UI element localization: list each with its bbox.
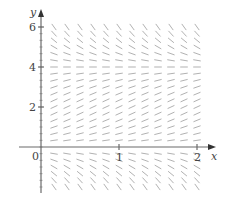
slope-segment — [129, 126, 135, 128]
slope-segment — [116, 119, 122, 122]
slope-segment — [143, 31, 148, 36]
slope-segment — [142, 153, 149, 154]
slope-segment — [91, 184, 95, 190]
slope-segment — [169, 184, 173, 190]
slope-segment — [181, 53, 187, 55]
slope-segment — [90, 126, 96, 128]
slope-segment — [64, 133, 71, 135]
slope-segment — [51, 126, 57, 128]
slope-segment — [52, 24, 56, 30]
slope-segment — [64, 53, 70, 55]
slope-segment — [91, 24, 95, 30]
slope-segment — [90, 79, 97, 81]
slope-segment — [182, 184, 186, 190]
slope-segment — [181, 165, 187, 168]
slope-segment — [103, 140, 110, 141]
slope-segment — [142, 165, 148, 168]
slope-segment — [142, 60, 149, 61]
slope-segment — [168, 60, 175, 61]
slope-segment — [64, 99, 70, 102]
slope-segment — [65, 178, 70, 183]
slope-segment — [182, 31, 187, 36]
slope-segment — [90, 159, 96, 161]
slope-segment — [168, 38, 173, 42]
slope-segment — [117, 31, 122, 36]
slope-segment — [116, 92, 122, 95]
slope-segment — [52, 31, 57, 36]
slope-segment — [78, 24, 82, 30]
slope-segment — [51, 153, 58, 154]
slope-segment — [116, 140, 123, 141]
y-axis-arrow-icon — [38, 9, 44, 17]
slope-segment — [194, 172, 199, 176]
slope-segment — [142, 140, 149, 141]
slope-segment — [142, 99, 148, 102]
slope-segment — [51, 53, 57, 55]
slope-segment — [142, 73, 149, 74]
slope-segment — [51, 45, 57, 48]
slope-segment — [116, 165, 122, 168]
slope-segment — [116, 106, 122, 109]
slope-segment — [103, 53, 109, 55]
slope-segment — [77, 53, 83, 55]
slope-segment — [155, 133, 162, 135]
slope-segment — [169, 178, 174, 183]
slope-segment — [77, 86, 83, 88]
slope-segment — [104, 184, 108, 190]
slope-segment — [90, 45, 96, 48]
slope-segment — [155, 45, 161, 48]
slope-segment — [169, 31, 174, 36]
slope-segment — [77, 165, 83, 168]
slope-segment — [155, 112, 161, 115]
slope-segment — [129, 119, 135, 122]
x-tick-label: 1 — [116, 151, 123, 164]
slope-segment — [64, 119, 70, 122]
slope-segment — [51, 92, 57, 95]
slope-segment — [181, 133, 188, 135]
slope-segment — [168, 73, 175, 74]
slope-segment — [130, 31, 135, 36]
slope-segment — [168, 172, 173, 176]
slope-segment — [168, 140, 175, 141]
slope-segment — [155, 140, 162, 141]
slope-segment — [194, 106, 200, 109]
x-axis-label: x — [211, 150, 218, 163]
slope-segment — [77, 172, 82, 176]
slope-segment — [51, 119, 57, 122]
slope-segment — [181, 153, 188, 154]
slope-segment — [116, 79, 123, 81]
slope-segment — [103, 86, 109, 88]
slope-segment — [77, 99, 83, 102]
slope-segment — [116, 133, 123, 135]
slope-segment — [116, 73, 123, 74]
slope-segment — [77, 79, 84, 81]
slope-segment — [64, 159, 70, 161]
slope-segment — [129, 159, 135, 161]
slope-segment — [116, 126, 122, 128]
slope-segment — [64, 60, 71, 61]
slope-segment — [168, 92, 174, 95]
slope-segment — [129, 133, 136, 135]
slope-segment — [51, 165, 57, 168]
slope-segment — [156, 184, 160, 190]
slope-segment — [142, 92, 148, 95]
slope-segment — [194, 140, 201, 141]
slope-segment — [142, 126, 148, 128]
slope-segment — [65, 31, 70, 36]
slope-field-diagram: x y 0 12246 — [0, 0, 230, 210]
slope-segment — [103, 126, 109, 128]
y-axis-label: y — [29, 6, 37, 19]
slope-segment — [90, 92, 96, 95]
slope-segment — [156, 24, 160, 30]
slope-segment — [103, 165, 109, 168]
slope-segment — [143, 178, 148, 183]
slope-segment — [181, 126, 187, 128]
slope-segment — [78, 31, 83, 36]
slope-segment — [194, 99, 200, 102]
slope-segment — [90, 153, 97, 154]
slope-segment — [64, 106, 70, 109]
slope-segment — [142, 45, 148, 48]
slope-segment — [51, 140, 58, 141]
slope-segment — [155, 73, 162, 74]
slope-segment — [129, 112, 135, 115]
